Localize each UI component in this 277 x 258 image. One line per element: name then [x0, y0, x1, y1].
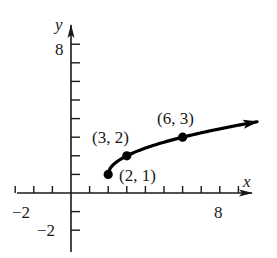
y-axis-label: y — [53, 15, 63, 34]
function-graph: y x −2 8 8 −2 (2, 1) (3, 2) (6, 3) — [0, 0, 277, 258]
x-axis-ticks — [15, 186, 238, 193]
x-tick-label-neg2: −2 — [12, 203, 30, 222]
data-point — [178, 133, 187, 142]
y-axis — [71, 25, 80, 252]
y-tick-label-8: 8 — [55, 40, 64, 59]
y-tick-label-neg2: −2 — [37, 221, 55, 240]
x-tick-label-8: 8 — [214, 203, 223, 222]
point-label-2-1: (2, 1) — [119, 166, 156, 185]
point-label-3-2: (3, 2) — [92, 128, 129, 147]
point-label-6-3: (6, 3) — [157, 109, 194, 128]
data-point — [122, 151, 131, 160]
y-axis-ticks — [71, 44, 80, 230]
x-axis-label: x — [242, 172, 251, 191]
data-point — [104, 170, 113, 179]
x-axis — [15, 186, 252, 193]
